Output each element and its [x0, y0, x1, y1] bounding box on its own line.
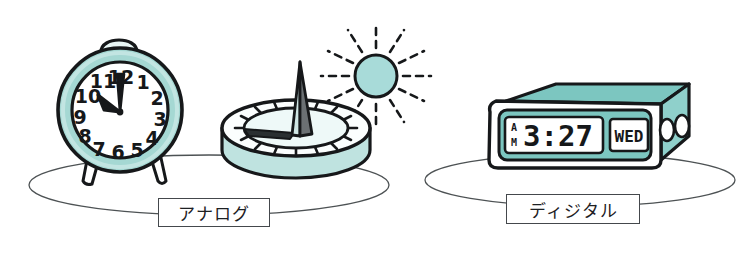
label-analog-text: アナログ [178, 200, 250, 225]
lcd-meridiem-m: M [511, 137, 517, 148]
numeral-5: 5 [130, 139, 143, 161]
side-button-2[interactable] [675, 115, 689, 137]
digital-alarm-clock: A M 3:27 WED [489, 84, 689, 168]
hand-pivot [117, 109, 124, 116]
numeral-11: 11 [90, 70, 116, 92]
alarm-clock: 12 1 2 3 4 5 6 7 8 9 10 11 [58, 40, 182, 185]
numeral-1: 1 [136, 71, 149, 93]
lcd-meridiem-am: A [511, 122, 517, 133]
numeral-8: 8 [78, 125, 91, 147]
lcd-weekday: WED [615, 127, 644, 146]
numeral-4: 4 [145, 127, 158, 149]
sun-ray [328, 89, 353, 101]
numeral-2: 2 [150, 87, 163, 109]
sun-disc [355, 55, 397, 97]
sun-ray [399, 51, 424, 63]
label-digital: ディジタル [506, 194, 640, 224]
sun-ray [328, 51, 353, 63]
sun-ray [399, 89, 424, 101]
sun-ray [390, 100, 404, 122]
illustration-canvas: 12 1 2 3 4 5 6 7 8 9 10 11 [0, 0, 753, 260]
label-analog: アナログ [158, 198, 270, 227]
numeral-7: 7 [92, 138, 105, 160]
clocks-illustration: 12 1 2 3 4 5 6 7 8 9 10 11 [0, 0, 753, 260]
sundial [222, 62, 370, 178]
sun-ray [348, 30, 362, 52]
sun-ray [390, 30, 404, 52]
numeral-9: 9 [73, 106, 86, 128]
side-button-1[interactable] [660, 119, 674, 141]
numeral-6: 6 [111, 141, 124, 163]
lcd-time: 3:27 [523, 119, 593, 153]
label-digital-text: ディジタル [529, 197, 618, 222]
